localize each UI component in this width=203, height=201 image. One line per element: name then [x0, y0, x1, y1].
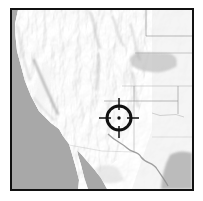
map-screenshot	[0, 0, 203, 201]
relief-map[interactable]	[12, 10, 192, 189]
map-frame	[10, 8, 194, 191]
crosshair-center-dot	[117, 116, 120, 119]
